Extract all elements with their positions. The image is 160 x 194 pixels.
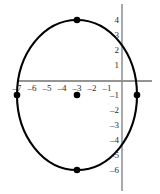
y-tick-label-3: 3 <box>115 31 120 40</box>
point-bottom-vertex <box>74 167 81 174</box>
y-tick-label-1: 1 <box>115 61 120 70</box>
y-tick-label-neg3: –3 <box>110 121 119 130</box>
point-top-vertex <box>74 17 81 24</box>
y-tick-label-neg1: –1 <box>110 91 119 100</box>
y-tick-label-2: 2 <box>115 46 120 55</box>
ellipse-graph-figure: –7 –6 –5 –4 –3 –2 –1 4 3 2 1 –1 –2 –3 –4… <box>0 0 160 194</box>
coordinate-plot <box>0 0 160 194</box>
y-tick-label-neg4: –4 <box>110 136 119 145</box>
x-tick-label-neg7: –7 <box>13 84 22 93</box>
x-tick-label-neg2: –2 <box>88 84 97 93</box>
y-tick-label-neg2: –2 <box>110 106 119 115</box>
x-tick-label-neg6: –6 <box>28 84 37 93</box>
x-tick-label-neg5: –5 <box>43 84 52 93</box>
y-tick-label-4: 4 <box>115 16 120 25</box>
axes-group <box>17 4 152 191</box>
y-tick-label-neg5: –5 <box>110 151 119 160</box>
x-tick-label-neg4: –4 <box>58 84 67 93</box>
y-tick-label-neg6: –6 <box>110 166 119 175</box>
x-tick-label-neg3: –3 <box>73 84 82 93</box>
point-right-vertex <box>134 92 141 99</box>
